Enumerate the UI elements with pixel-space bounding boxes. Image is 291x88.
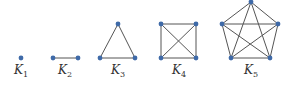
edge	[231, 2, 251, 58]
graph-label-k5: K5	[244, 63, 258, 79]
graph-label-k1: K1	[14, 63, 28, 79]
edge	[118, 24, 135, 58]
vertex	[116, 22, 121, 27]
graph-k1	[19, 56, 24, 61]
edge	[251, 2, 270, 58]
vertex	[220, 22, 225, 27]
vertex	[98, 56, 103, 61]
vertex	[76, 56, 81, 61]
vertex	[19, 56, 24, 61]
vertex	[194, 22, 199, 27]
vertex	[276, 22, 281, 27]
vertex	[159, 56, 164, 61]
vertex	[133, 56, 138, 61]
graph-k4	[159, 22, 199, 61]
vertex	[268, 56, 273, 61]
edge	[100, 24, 118, 58]
graph-label-k4: K4	[172, 63, 186, 79]
graph-k5	[220, 0, 281, 60]
graph-label-k3: K3	[111, 63, 125, 79]
graph-label-k2: K2	[58, 63, 72, 79]
vertex	[194, 56, 199, 61]
vertex	[51, 56, 56, 61]
vertex	[229, 56, 234, 61]
vertex	[159, 22, 164, 27]
graph-k3	[98, 22, 138, 61]
graph-k2	[51, 56, 81, 61]
